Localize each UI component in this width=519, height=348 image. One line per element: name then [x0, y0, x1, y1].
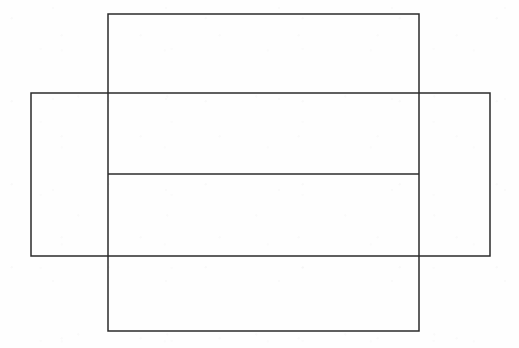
drawing-canvas: A plain line drawing of two overlapping … [0, 0, 519, 348]
tall-rectangle [108, 14, 419, 331]
line-figure [0, 0, 519, 348]
